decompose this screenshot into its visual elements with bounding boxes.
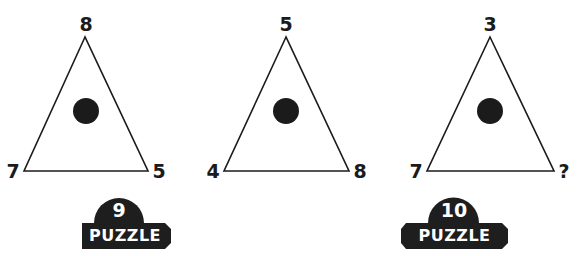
triangle-2 (224, 37, 349, 171)
triangle-3 (427, 37, 554, 171)
triangle-3-right-unknown: ? (554, 162, 574, 181)
triangle-2-top-number: 5 (276, 15, 296, 34)
triangle-1-left-number: 7 (3, 162, 23, 181)
puzzle-canvas: 8 7 5 5 4 8 3 7 ? 9 PUZZLE 10 PUZZLE (0, 0, 582, 256)
puzzle-badge-1-number: 9 (99, 201, 139, 220)
triangle-3-top-number: 3 (480, 15, 500, 34)
triangle-1 (24, 37, 148, 171)
triangle-2-left-number: 4 (203, 162, 223, 181)
puzzle-badge-1-label: PUZZLE (82, 228, 168, 244)
puzzle-badge-2-number: 10 (431, 201, 477, 220)
puzzle-graphics (0, 0, 582, 256)
triangle-1-right-number: 5 (149, 162, 169, 181)
center-dot-icon (73, 98, 99, 124)
triangle-3-left-number: 7 (406, 162, 426, 181)
triangle-1-top-number: 8 (76, 15, 96, 34)
triangle-2-right-number: 8 (350, 162, 370, 181)
center-dot-icon (273, 98, 299, 124)
puzzle-badge-2-label: PUZZLE (404, 228, 505, 244)
center-dot-icon (477, 98, 503, 124)
